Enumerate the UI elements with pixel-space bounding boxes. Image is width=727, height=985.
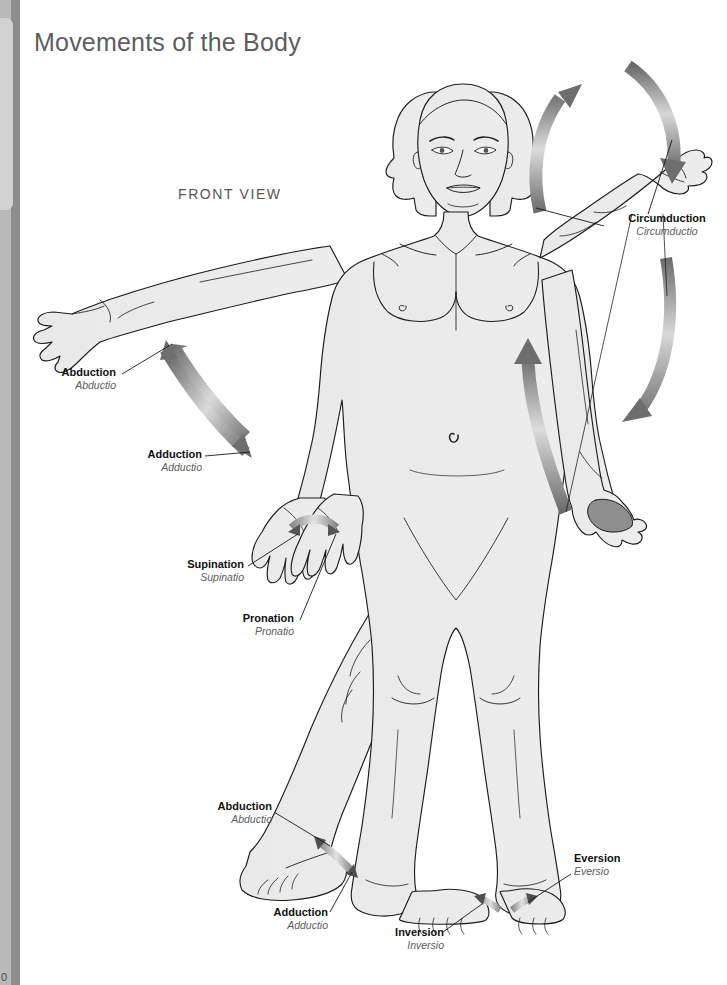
label-eversion-en: Eversion: [574, 852, 684, 865]
body-figure: [0, 0, 727, 985]
label-abduction-foot-la: Abductio: [150, 813, 272, 825]
label-abduction-arm: Abduction Abductio: [6, 366, 116, 391]
label-adduction-arm: Adduction Adductio: [80, 448, 202, 473]
label-adduction-foot: Adduction Adductio: [204, 906, 328, 931]
arrow-circumduction-upper-right: [628, 66, 686, 184]
label-circumduction: Circumduction Circumductio: [608, 212, 726, 237]
label-abduction-arm-la: Abductio: [6, 379, 116, 391]
arrow-circumduction-lower-right: [622, 258, 670, 422]
label-adduction-foot-la: Adductio: [204, 919, 328, 931]
label-supination-la: Supinatio: [118, 571, 244, 583]
label-adduction-arm-la: Adductio: [80, 461, 202, 473]
illustration-page: 0 Movements of the Body FRONT VIEW: [0, 0, 727, 985]
label-inversion-en: Inversion: [336, 926, 444, 939]
arrow-circumduction-upper-left: [536, 84, 582, 212]
label-abduction-foot: Abduction Abductio: [150, 800, 272, 825]
label-pronation-la: Pronatio: [172, 625, 294, 637]
label-pronation-en: Pronation: [172, 612, 294, 625]
label-circumduction-la: Circumductio: [608, 225, 726, 237]
arrow-adduction-arm: [160, 340, 258, 462]
label-eversion-la: Eversio: [574, 865, 684, 877]
label-inversion: Inversion Inversio: [336, 926, 444, 951]
abducted-arm-left: [33, 246, 348, 373]
label-adduction-arm-en: Adduction: [80, 448, 202, 461]
label-supination: Supination Supinatio: [118, 558, 244, 583]
label-eversion: Eversion Eversio: [574, 852, 684, 877]
label-pronation: Pronation Pronatio: [172, 612, 294, 637]
label-abduction-arm-en: Abduction: [6, 366, 116, 379]
label-abduction-foot-en: Abduction: [150, 800, 272, 813]
label-adduction-foot-en: Adduction: [204, 906, 328, 919]
label-inversion-la: Inversio: [336, 939, 444, 951]
label-circumduction-en: Circumduction: [608, 212, 726, 225]
raised-arm: [540, 150, 712, 258]
label-supination-en: Supination: [118, 558, 244, 571]
